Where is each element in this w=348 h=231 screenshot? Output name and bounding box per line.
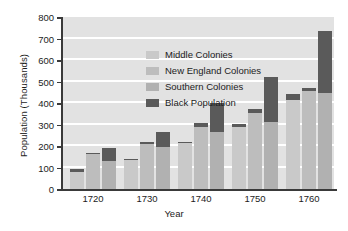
y-tick-label: 300 bbox=[16, 121, 54, 130]
x-tick-label: 1750 bbox=[225, 193, 285, 204]
y-tick-label: 600 bbox=[16, 56, 54, 65]
y-tick-label: 800 bbox=[16, 13, 54, 22]
legend-item-black-population: Black Population bbox=[146, 96, 261, 110]
y-tick-label: 200 bbox=[16, 142, 54, 151]
bar-1760-southern bbox=[318, 31, 332, 189]
population-bar-chart: Population (Thousands) 01002003004005006… bbox=[0, 0, 348, 231]
bar-1730-middle bbox=[124, 159, 138, 189]
legend-swatch-new-england-colonies bbox=[146, 67, 159, 75]
bar-segment-middle bbox=[70, 172, 84, 189]
y-tick-label: 500 bbox=[16, 78, 54, 87]
bar-1750-middle bbox=[232, 124, 246, 189]
bar-segment-black-population bbox=[232, 124, 246, 127]
bar-1730-new_england bbox=[140, 142, 154, 189]
bar-segment-black-population bbox=[318, 31, 332, 94]
bar-segment-black-population bbox=[302, 88, 316, 92]
y-tick-label: 100 bbox=[16, 164, 54, 173]
x-tick-label: 1720 bbox=[63, 193, 123, 204]
chart-legend: Middle Colonies New England Colonies Sou… bbox=[146, 48, 261, 112]
bar-segment-black-population bbox=[86, 153, 100, 154]
y-axis-line bbox=[61, 17, 63, 190]
legend-label-black-population: Black Population bbox=[165, 98, 236, 108]
bar-segment-black-population bbox=[194, 123, 208, 126]
x-axis-line bbox=[61, 189, 337, 191]
bar-segment-new_england bbox=[140, 144, 154, 189]
bar-segment-black-population bbox=[140, 142, 154, 144]
legend-item-new-england-colonies: New England Colonies bbox=[146, 64, 261, 78]
bar-segment-new_england bbox=[302, 91, 316, 189]
legend-swatch-black-population bbox=[146, 99, 159, 107]
bar-segment-black-population bbox=[70, 169, 84, 172]
bar-segment-new_england bbox=[194, 127, 208, 189]
bar-segment-new_england bbox=[86, 154, 100, 189]
bar-segment-southern bbox=[156, 147, 170, 189]
bar-segment-middle bbox=[178, 143, 192, 189]
bar-1750-new_england bbox=[248, 109, 262, 189]
plot-area: Middle Colonies New England Colonies Sou… bbox=[62, 17, 334, 189]
legend-item-southern-colonies: Southern Colonies bbox=[146, 80, 261, 94]
legend-label-new-england-colonies: New England Colonies bbox=[165, 66, 261, 76]
bar-1720-southern bbox=[102, 148, 116, 189]
x-tick-label: 1740 bbox=[171, 193, 231, 204]
bar-segment-black-population bbox=[264, 77, 278, 123]
legend-swatch-southern-colonies bbox=[146, 83, 159, 91]
bar-1730-southern bbox=[156, 132, 170, 189]
bar-segment-middle bbox=[286, 100, 300, 189]
bar-1740-southern bbox=[210, 103, 224, 189]
x-tick-label: 1760 bbox=[279, 193, 339, 204]
legend-label-middle-colonies: Middle Colonies bbox=[165, 50, 233, 60]
y-axis-ticks: 0100200300400500600700800 bbox=[0, 0, 58, 231]
x-tick-label: 1730 bbox=[117, 193, 177, 204]
bar-segment-black-population bbox=[124, 159, 138, 160]
legend-item-middle-colonies: Middle Colonies bbox=[146, 48, 261, 62]
bar-segment-black-population bbox=[286, 94, 300, 100]
legend-swatch-middle-colonies bbox=[146, 51, 159, 59]
bar-1720-middle bbox=[70, 169, 84, 189]
bar-1720-new_england bbox=[86, 153, 100, 189]
bar-1740-new_england bbox=[194, 123, 208, 189]
bar-segment-southern bbox=[102, 161, 116, 189]
y-tick-label: 700 bbox=[16, 35, 54, 44]
bar-segment-new_england bbox=[248, 113, 262, 189]
bar-segment-southern bbox=[264, 122, 278, 189]
x-axis-title: Year bbox=[0, 208, 348, 219]
bar-segment-southern bbox=[318, 93, 332, 189]
bar-segment-black-population bbox=[178, 142, 192, 143]
bar-1750-southern bbox=[264, 77, 278, 189]
bar-segment-middle bbox=[124, 160, 138, 189]
bar-segment-black-population bbox=[102, 148, 116, 161]
gridline bbox=[62, 37, 334, 39]
bar-segment-black-population bbox=[156, 132, 170, 147]
bar-segment-middle bbox=[232, 127, 246, 189]
y-tick-label: 400 bbox=[16, 99, 54, 108]
bar-1760-new_england bbox=[302, 88, 316, 189]
legend-label-southern-colonies: Southern Colonies bbox=[165, 82, 243, 92]
bar-1760-middle bbox=[286, 94, 300, 189]
bar-segment-southern bbox=[210, 132, 224, 189]
y-tick-label: 0 bbox=[16, 185, 54, 194]
bar-1740-middle bbox=[178, 142, 192, 189]
